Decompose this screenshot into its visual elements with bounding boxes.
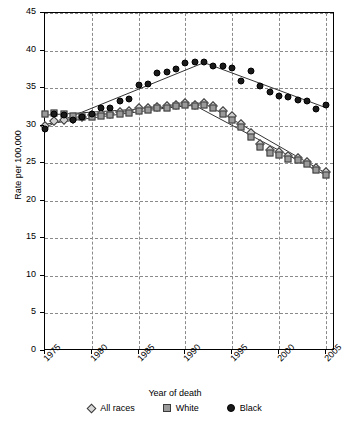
trend-lines <box>45 13 335 351</box>
x-axis-title: Year of death <box>0 388 350 398</box>
trend-line <box>45 103 326 173</box>
y-tick-mark <box>40 200 44 201</box>
y-tick-label: 40 <box>0 45 36 54</box>
trend-line <box>45 63 326 128</box>
y-tick-label: 45 <box>0 7 36 16</box>
legend-label-all-races: All races <box>100 403 135 413</box>
y-tick-label: 5 <box>0 307 36 316</box>
y-tick-label: 25 <box>0 157 36 166</box>
legend-item-all-races: All races <box>88 403 135 413</box>
legend-label-white: White <box>176 403 199 413</box>
y-tick-mark <box>40 50 44 51</box>
legend-label-black: Black <box>240 403 262 413</box>
plot-area <box>44 12 334 350</box>
y-tick-mark <box>40 162 44 163</box>
trend-line <box>45 105 326 175</box>
y-tick-mark <box>40 312 44 313</box>
chart-legend: All races White Black <box>0 403 350 413</box>
square-marker-icon <box>163 404 171 412</box>
y-tick-label: 30 <box>0 120 36 129</box>
y-tick-label: 15 <box>0 232 36 241</box>
y-tick-mark <box>40 125 44 126</box>
legend-item-white: White <box>163 403 199 413</box>
circle-marker-icon <box>227 404 235 412</box>
y-tick-mark <box>40 275 44 276</box>
legend-item-black: Black <box>227 403 262 413</box>
y-tick-mark <box>40 87 44 88</box>
y-tick-mark <box>40 12 44 13</box>
y-tick-label: 10 <box>0 270 36 279</box>
diamond-marker-icon <box>87 403 97 413</box>
chart-container: Rate per 100,000 05101520253035404519751… <box>0 0 350 428</box>
y-tick-label: 20 <box>0 195 36 204</box>
y-tick-label: 35 <box>0 82 36 91</box>
y-tick-label: 0 <box>0 345 36 354</box>
y-tick-mark <box>40 237 44 238</box>
